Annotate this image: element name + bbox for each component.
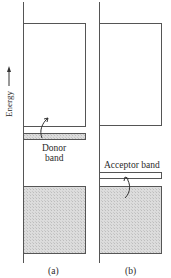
donor-band [24,134,86,140]
panel-a-valence-band [24,187,86,254]
panel-a-conduction-band [24,24,86,127]
acceptor-band [100,173,162,179]
energy-axis-label: Energy [4,81,14,127]
band-diagram [0,0,171,278]
donor-band-label-line1: Donor [42,143,66,153]
acceptor-band-label: Acceptor band [104,160,160,170]
panel-a [24,2,86,263]
donor-band-label-line2: band [45,153,63,163]
panel-b-caption: (b) [125,266,136,276]
panel-b-valence-band [100,187,162,254]
panel-b [100,2,162,263]
panel-a-caption: (a) [48,266,59,276]
panel-b-conduction-band [100,24,162,126]
